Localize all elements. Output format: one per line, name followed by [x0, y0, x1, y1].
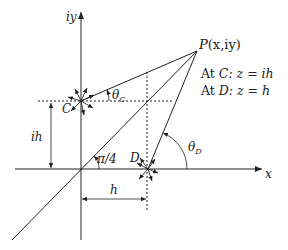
annotation-at-c: At C: z = ih — [200, 66, 274, 81]
point-d-label: D — [129, 151, 140, 165]
iy-axis-label: iy — [66, 10, 77, 24]
x-axis-label: x — [265, 167, 272, 181]
theta-c-label: θC — [112, 88, 125, 104]
h-dimension-label: h — [110, 183, 118, 197]
annotation-at-d: At D: z = h — [200, 83, 270, 98]
theta-d-label: θD — [188, 140, 202, 156]
ih-dimension-label: ih — [31, 130, 43, 144]
complex-plane-diagram: iy x P(x,iy) At C: z = ih At D: z = h C … — [0, 0, 288, 250]
theta-d-arc — [163, 133, 187, 169]
pi-over-4-label: π/4 — [96, 152, 117, 166]
diagram-canvas: iy x P(x,iy) At C: z = ih At D: z = h C … — [0, 0, 288, 250]
point-p-label: P(x,iy) — [198, 37, 241, 52]
point-c-label: C — [62, 102, 71, 116]
diagonal-line — [12, 51, 197, 240]
theta-c-arc — [107, 90, 109, 101]
